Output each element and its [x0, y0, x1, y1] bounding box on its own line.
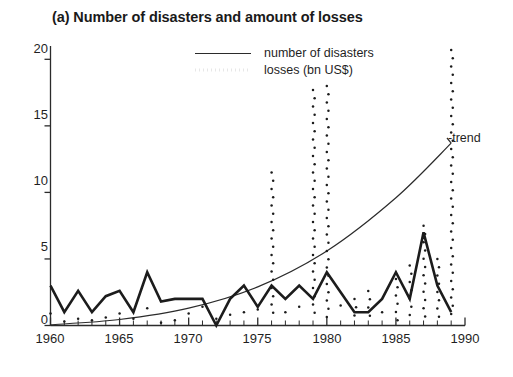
- x-axis-major-ticks: [51, 318, 466, 326]
- disasters-line: [51, 232, 452, 325]
- chart-figure: (a) Number of disasters and amount of lo…: [0, 0, 513, 377]
- losses-series-dots: [49, 49, 454, 324]
- y-axis-ticks: [45, 59, 51, 325]
- trend-leader-line: [447, 138, 451, 143]
- chart-plot-area: [0, 0, 513, 377]
